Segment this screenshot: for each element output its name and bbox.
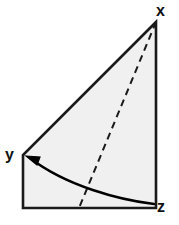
vertex-label-y: y: [5, 147, 14, 163]
figure-canvas: [0, 0, 179, 225]
vertex-label-x: x: [156, 3, 165, 19]
geometry-figure: x y z: [0, 0, 179, 225]
vertex-label-z: z: [157, 199, 165, 215]
